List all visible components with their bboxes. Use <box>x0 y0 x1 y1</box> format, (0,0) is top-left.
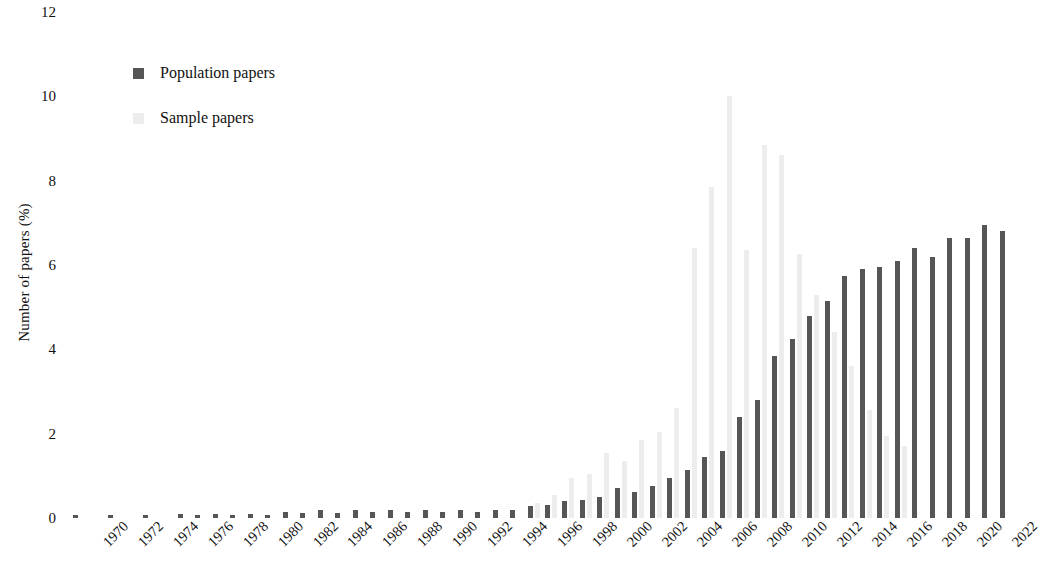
x-tick-label: 1980 <box>274 518 307 551</box>
bar-sample <box>797 254 802 518</box>
bar-sample <box>814 295 819 518</box>
legend-label-sample: Sample papers <box>160 109 254 127</box>
x-tick-label: 2022 <box>1008 518 1041 551</box>
bar-group <box>544 12 561 518</box>
bar-group <box>596 12 613 518</box>
bar-group <box>404 12 421 518</box>
chart-legend: Population papers Sample papers <box>133 62 393 152</box>
bar-group <box>474 12 491 518</box>
bar-group <box>631 12 648 518</box>
y-tick-label: 4 <box>26 341 56 358</box>
bar-group <box>649 12 666 518</box>
bar-group <box>771 12 788 518</box>
x-tick-label: 2000 <box>624 518 657 551</box>
x-tick-label: 1996 <box>554 518 587 551</box>
x-tick-label: 1974 <box>169 518 202 551</box>
bar-group <box>754 12 771 518</box>
bar-population <box>528 506 533 518</box>
bar-population <box>860 269 865 518</box>
bar-group <box>859 12 876 518</box>
bar-group <box>946 12 963 518</box>
bar-sample <box>849 366 854 518</box>
bar-group <box>806 12 823 518</box>
bar-population <box>982 225 987 518</box>
bar-group <box>527 12 544 518</box>
bar-group <box>894 12 911 518</box>
bar-sample <box>657 432 662 518</box>
x-tick-label: 1982 <box>309 518 342 551</box>
bar-population <box>318 510 323 518</box>
legend-item-sample: Sample papers <box>133 107 393 129</box>
bar-population <box>353 510 358 518</box>
bar-population <box>895 261 900 518</box>
x-tick-label: 1988 <box>414 518 447 551</box>
legend-label-population: Population papers <box>160 64 275 82</box>
x-tick-label: 2006 <box>729 518 762 551</box>
bar-sample <box>639 440 644 518</box>
bar-group <box>684 12 701 518</box>
bar-group <box>789 12 806 518</box>
y-axis-ticks: 024681012 <box>20 0 56 577</box>
bar-population <box>632 492 637 518</box>
bar-sample <box>604 453 609 518</box>
bar-group <box>999 12 1016 518</box>
bar-group <box>561 12 578 518</box>
bar-population <box>720 451 725 518</box>
x-tick-label: 1976 <box>204 518 237 551</box>
bar-group <box>422 12 439 518</box>
bar-population <box>493 510 498 518</box>
y-tick-label: 0 <box>26 510 56 527</box>
bar-group <box>981 12 998 518</box>
x-tick-label: 1970 <box>99 518 132 551</box>
bar-population <box>458 510 463 518</box>
bar-group <box>719 12 736 518</box>
bar-sample <box>762 145 767 518</box>
x-tick-label: 2012 <box>833 518 866 551</box>
bar-group <box>72 12 89 518</box>
bar-group <box>841 12 858 518</box>
legend-swatch-sample-icon <box>133 113 144 124</box>
bar-population <box>912 248 917 518</box>
bar-population <box>842 276 847 518</box>
bar-sample <box>674 408 679 518</box>
bar-sample <box>867 410 872 518</box>
bar-population <box>1000 231 1005 518</box>
x-tick-label: 2020 <box>973 518 1006 551</box>
bar-population <box>947 238 952 518</box>
bar-population <box>615 488 620 518</box>
x-tick-label: 2002 <box>659 518 692 551</box>
bar-population <box>807 316 812 518</box>
x-tick-label: 2016 <box>903 518 936 551</box>
bar-population <box>423 510 428 518</box>
x-tick-label: 2018 <box>938 518 971 551</box>
bar-sample <box>744 250 749 518</box>
bar-population <box>650 486 655 518</box>
bar-population <box>580 500 585 518</box>
y-tick-label: 8 <box>26 172 56 189</box>
x-tick-label: 2004 <box>694 518 727 551</box>
bar-population <box>702 457 707 518</box>
bar-group <box>911 12 928 518</box>
bar-group <box>824 12 841 518</box>
bar-population <box>685 470 690 518</box>
x-tick-label: 1986 <box>379 518 412 551</box>
y-tick-label: 10 <box>26 88 56 105</box>
bar-sample <box>884 436 889 518</box>
x-tick-label: 2008 <box>764 518 797 551</box>
bar-sample <box>587 474 592 518</box>
bar-sample <box>727 96 732 518</box>
bar-sample <box>709 187 714 518</box>
bar-group <box>492 12 509 518</box>
x-tick-label: 1984 <box>344 518 377 551</box>
bar-sample <box>569 478 574 518</box>
x-tick-label: 1998 <box>589 518 622 551</box>
x-tick-label: 1992 <box>484 518 517 551</box>
bar-sample <box>832 332 837 518</box>
bar-population <box>772 356 777 518</box>
bar-population <box>825 301 830 518</box>
bar-group <box>701 12 718 518</box>
bar-population <box>667 478 672 518</box>
y-tick-label: 2 <box>26 425 56 442</box>
legend-swatch-population-icon <box>133 68 144 79</box>
bar-group <box>614 12 631 518</box>
